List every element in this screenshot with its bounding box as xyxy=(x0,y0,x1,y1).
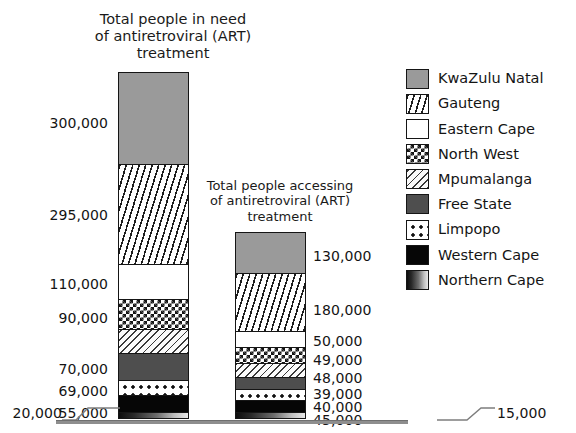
legend-swatch-free-state-icon xyxy=(406,194,429,214)
value-label-right-mpumalanga: 48,000 xyxy=(313,370,363,386)
legend-swatch-north-west-icon xyxy=(406,144,429,164)
legend-item-kwazulu-natal[interactable]: KwaZulu Natal xyxy=(406,68,574,89)
chart-title-people-accessing: Total people accessing of antiretroviral… xyxy=(192,178,368,224)
value-label-right-eastern-cape: 50,000 xyxy=(313,333,363,349)
bar-people-in-need xyxy=(118,72,189,419)
legend-label-limpopo: Limpopo xyxy=(438,222,500,237)
legend-swatch-western-cape-icon xyxy=(406,245,429,265)
legend-swatch-limpopo-icon xyxy=(406,220,429,240)
bar-segment-northern-cape xyxy=(119,413,188,418)
legend-label-north-west: North West xyxy=(438,147,519,162)
value-label-right-gauteng: 180,000 xyxy=(313,302,372,318)
bar-segment-eastern-cape xyxy=(119,265,188,300)
legend-swatch-mpumalanga-icon xyxy=(406,169,429,189)
legend-item-north-west[interactable]: North West xyxy=(406,144,574,165)
legend-item-limpopo[interactable]: Limpopo xyxy=(406,219,574,240)
legend-label-eastern-cape: Eastern Cape xyxy=(438,122,535,137)
leader-line-northern-cape-right xyxy=(437,404,495,424)
legend-label-northern-cape: Northern Cape xyxy=(438,273,544,288)
legend-item-mpumalanga[interactable]: Mpumalanga xyxy=(406,169,574,190)
legend-label-gauteng: Gauteng xyxy=(438,96,500,111)
legend-label-kwazulu-natal: KwaZulu Natal xyxy=(438,71,544,86)
chart-baseline xyxy=(56,420,408,424)
legend-item-gauteng[interactable]: Gauteng xyxy=(406,93,574,114)
legend-item-eastern-cape[interactable]: Eastern Cape xyxy=(406,118,574,139)
bar-people-accessing xyxy=(235,232,306,419)
bar-segment-north-west xyxy=(119,300,188,330)
value-label-right-north-west: 49,000 xyxy=(313,352,363,368)
legend-label-mpumalanga: Mpumalanga xyxy=(438,172,532,187)
legend-swatch-gauteng-icon xyxy=(406,94,429,114)
legend-swatch-eastern-cape-icon xyxy=(406,119,429,139)
chart-title-people-in-need: Total people in need of antiretroviral (… xyxy=(62,11,284,62)
legend-item-free-state[interactable]: Free State xyxy=(406,194,574,215)
bar-segment-north-west xyxy=(236,348,305,364)
value-label-right-northern-cape: 15,000 xyxy=(497,405,547,421)
legend-swatch-northern-cape-icon xyxy=(406,270,429,290)
bar-segment-gauteng xyxy=(119,165,188,264)
value-label-left-eastern-cape: 110,000 xyxy=(0,276,108,292)
bar-segment-northern-cape xyxy=(236,413,305,418)
bar-segment-gauteng xyxy=(236,274,305,332)
value-label-left-kwazulu-natal: 300,000 xyxy=(0,115,108,131)
legend-label-western-cape: Western Cape xyxy=(438,248,539,263)
bar-segment-free-state xyxy=(236,378,305,390)
legend-label-free-state: Free State xyxy=(438,197,512,212)
bar-segment-limpopo xyxy=(236,390,305,401)
value-label-left-limpopo: 69,000 xyxy=(0,383,108,399)
value-label-left-free-state: 70,000 xyxy=(0,361,108,377)
stacked-bar-chart: Total people in need of antiretroviral (… xyxy=(0,0,576,433)
bar-segment-western-cape xyxy=(119,396,188,413)
bar-segment-kwazulu-natal xyxy=(236,233,305,274)
bar-segment-mpumalanga xyxy=(119,330,188,355)
bar-segment-free-state xyxy=(119,354,188,381)
value-label-left-gauteng: 295,000 xyxy=(0,207,108,223)
value-label-left-north-west: 90,000 xyxy=(0,310,108,326)
value-label-left-northern-cape: 20,000 xyxy=(0,405,62,421)
bar-segment-eastern-cape xyxy=(236,332,305,348)
bar-segment-limpopo xyxy=(119,381,188,396)
value-label-right-kwazulu-natal: 130,000 xyxy=(313,248,372,264)
legend-swatch-kwazulu-natal-icon xyxy=(406,69,429,89)
bar-segment-western-cape xyxy=(236,401,305,413)
legend-item-western-cape[interactable]: Western Cape xyxy=(406,244,574,265)
bar-segment-kwazulu-natal xyxy=(119,73,188,165)
legend-item-northern-cape[interactable]: Northern Cape xyxy=(406,270,574,291)
chart-legend: KwaZulu Natal Gauteng Eastern Cape North… xyxy=(406,68,574,291)
bar-segment-mpumalanga xyxy=(236,364,305,377)
